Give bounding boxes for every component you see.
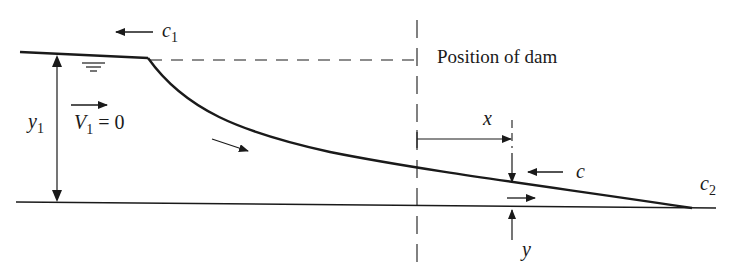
- y1-arrow-down-icon: [52, 190, 62, 202]
- v1-label: V1 = 0: [74, 111, 125, 137]
- c-label: c: [576, 160, 585, 182]
- dam-break-diagram: c1 y1 V1 = 0 Position of dam x c y c2: [0, 0, 732, 280]
- position-of-dam-label: Position of dam: [437, 46, 558, 67]
- c1-label: c1: [162, 19, 178, 45]
- y-label: y: [520, 238, 531, 261]
- y1-arrow-up-icon: [52, 55, 62, 67]
- flow-direction-arrow-icon: [212, 139, 248, 151]
- upstream-water-surface: [20, 52, 148, 58]
- channel-bed-line: [16, 202, 716, 208]
- y1-label: y1: [26, 110, 44, 136]
- wave-profile-curve: [148, 58, 692, 208]
- water-surface-symbol-icon: [82, 63, 105, 71]
- x-label: x: [482, 107, 492, 129]
- c2-label: c2: [700, 172, 716, 198]
